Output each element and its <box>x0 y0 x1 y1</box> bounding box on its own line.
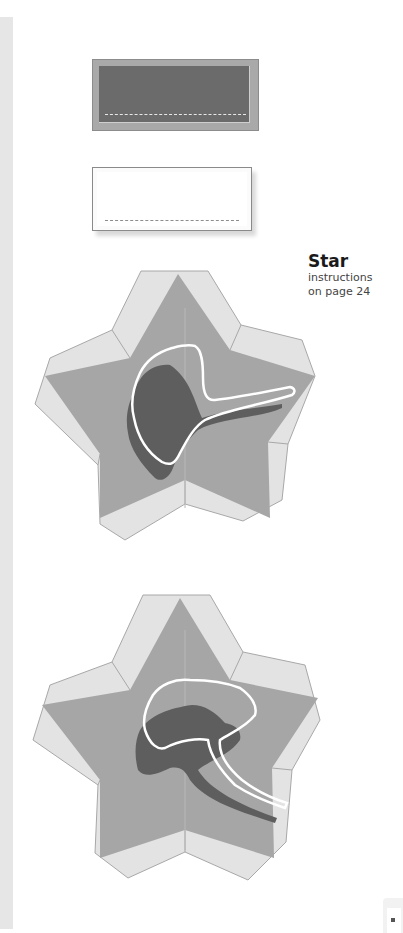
page-corner-marker <box>391 918 395 922</box>
star-template-2 <box>30 590 340 890</box>
dashed-fold-line <box>105 114 246 115</box>
light-label-face <box>97 172 247 226</box>
light-label-template <box>92 167 252 231</box>
page-corner-tab <box>383 898 403 933</box>
dark-label-template <box>92 59 259 131</box>
star-ginkgo-illustration-2 <box>30 590 340 890</box>
star-ginkgo-illustration-1 <box>30 268 340 558</box>
dashed-fold-line <box>105 220 239 221</box>
page-edge-strip <box>0 17 13 929</box>
star-template-1 <box>30 268 340 558</box>
